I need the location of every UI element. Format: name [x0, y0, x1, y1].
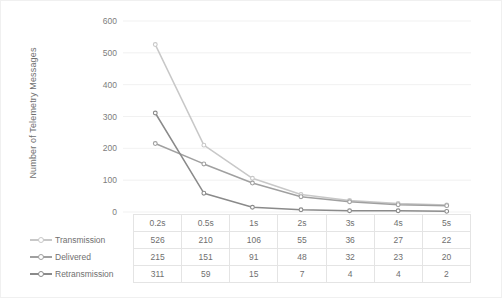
data-point-marker: [153, 43, 157, 47]
table-column-header: 3s: [326, 215, 374, 232]
table-cell: 32: [326, 249, 374, 266]
data-point-marker: [251, 181, 255, 185]
table-cell: 15: [230, 266, 278, 283]
table-cell: 151: [182, 249, 230, 266]
table-column-header: 0.5s: [182, 215, 230, 232]
table-cell: 23: [374, 249, 422, 266]
data-table: 0.2s0.5s1s2s3s4s5sTransmission5262101065…: [28, 214, 471, 283]
table-cell: 311: [134, 266, 182, 283]
data-point-marker: [153, 111, 157, 115]
table-header-row: 0.2s0.5s1s2s3s4s5s: [28, 215, 471, 232]
table-cell: 27: [374, 232, 422, 249]
table-cell: 48: [278, 249, 326, 266]
table-cell: 36: [326, 232, 374, 249]
y-tick-label: 200: [103, 143, 117, 153]
data-point-marker: [251, 176, 255, 180]
table-column-header: 4s: [374, 215, 422, 232]
y-axis-title-text: Number of Telemetry Messages: [28, 47, 38, 178]
data-point-marker: [299, 195, 303, 199]
legend-swatch-icon: [30, 270, 52, 279]
data-point-marker: [251, 205, 255, 209]
table-cell: 22: [422, 232, 470, 249]
data-point-marker: [202, 191, 206, 195]
table-cell: 91: [230, 249, 278, 266]
y-tick-label: 500: [103, 48, 117, 58]
data-point-marker: [396, 209, 400, 213]
table-cell: 59: [182, 266, 230, 283]
table-column-header: 1s: [230, 215, 278, 232]
legend-item-transmission[interactable]: Transmission: [28, 232, 134, 249]
data-point-marker: [445, 209, 449, 213]
y-tick-label: 600: [103, 16, 117, 26]
table-row: Delivered2151519148322320: [28, 249, 471, 266]
table-cell: 210: [182, 232, 230, 249]
table-cell: 55: [278, 232, 326, 249]
data-point-marker: [299, 208, 303, 212]
data-point-marker: [348, 209, 352, 213]
y-tick-label: 400: [103, 80, 117, 90]
legend-label: Retransmission: [55, 269, 114, 279]
legend-swatch-icon: [30, 253, 52, 262]
y-tick-label: 300: [103, 112, 117, 122]
data-point-marker: [348, 200, 352, 204]
data-point-marker: [396, 203, 400, 207]
table-corner-cell: [28, 215, 134, 232]
table-cell: 7: [278, 266, 326, 283]
table-cell: 215: [134, 249, 182, 266]
y-axis-title: Number of Telemetry Messages: [25, 15, 41, 211]
legend-label: Transmission: [55, 235, 105, 245]
legend-swatch-icon: [30, 236, 52, 245]
legend-item-delivered[interactable]: Delivered: [28, 249, 134, 266]
table-row: Retransmission31159157442: [28, 266, 471, 283]
table-column-header: 5s: [422, 215, 470, 232]
table-row: Transmission52621010655362722: [28, 232, 471, 249]
table-cell: 106: [230, 232, 278, 249]
data-point-marker: [202, 143, 206, 147]
data-series-group: [153, 43, 448, 214]
y-tick-label: 100: [103, 175, 117, 185]
gridlines: [123, 21, 471, 212]
table-cell: 2: [422, 266, 470, 283]
legend-label: Delivered: [55, 252, 91, 262]
table-column-header: 0.2s: [134, 215, 182, 232]
chart-figure: 0100200300400500600 Number of Telemetry …: [0, 0, 502, 298]
data-point-marker: [445, 204, 449, 208]
table-cell: 4: [374, 266, 422, 283]
table-column-header: 2s: [278, 215, 326, 232]
table-cell: 526: [134, 232, 182, 249]
table-cell: 20: [422, 249, 470, 266]
table-cell: 4: [326, 266, 374, 283]
data-point-marker: [153, 142, 157, 146]
series-line-transmission: [155, 45, 446, 205]
y-axis-tick-labels: 0100200300400500600: [103, 16, 117, 217]
legend-item-retransmission[interactable]: Retransmission: [28, 266, 134, 283]
data-point-marker: [202, 162, 206, 166]
